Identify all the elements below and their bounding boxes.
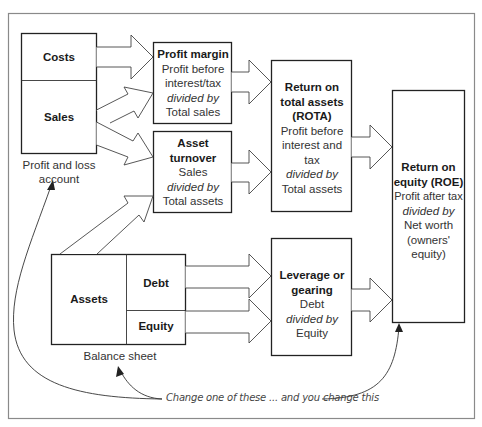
arrow-equity-to-leverage: [186, 299, 272, 343]
arrowhead-roe-icon: [395, 323, 403, 332]
arrow-assets-to-asset-turnover: [60, 196, 153, 254]
roe-line3: (owners': [390, 233, 467, 248]
rota-title2: total assets: [272, 95, 352, 110]
rota-divided: divided by: [272, 167, 352, 182]
costs-label: Costs: [21, 50, 97, 64]
rota-title1: Return on: [272, 80, 352, 95]
arrow-leverage-to-roe: [352, 278, 393, 322]
roe-content: Return on equity (ROE) Profit after tax …: [390, 160, 467, 262]
arrow-costs-to-profit-margin: [97, 35, 154, 79]
asset-turnover-line1: Sales: [154, 165, 232, 180]
profit-margin-content: Profit margin Profit before interest/tax…: [154, 47, 232, 120]
profit-margin-line2: interest/tax: [154, 76, 232, 91]
assets-label: Assets: [51, 292, 127, 306]
leverage-divided: divided by: [272, 312, 352, 327]
leverage-line2: Equity: [272, 326, 352, 341]
curve-to-balance-sheet: [121, 372, 162, 399]
roe-line4: equity): [390, 247, 467, 262]
asset-turnover-title2: turnover: [154, 151, 232, 166]
profit-loss-caption: Profit and loss account: [14, 158, 104, 186]
profit-margin-line3: Total sales: [154, 105, 232, 120]
balance-sheet-caption: Balance sheet: [60, 349, 180, 363]
leverage-title1: Leverage or: [272, 268, 352, 283]
asset-turnover-line2: Total assets: [154, 194, 232, 209]
asset-turnover-title1: Asset: [154, 136, 232, 151]
leverage-content: Leverage or gearing Debt divided by Equi…: [272, 268, 352, 341]
change-annotation: Change one of these ... and you change t…: [166, 392, 379, 403]
rota-line3: tax: [272, 153, 352, 168]
arrow-profit-margin-to-rota: [232, 60, 272, 104]
roe-title2: equity (ROE): [390, 175, 467, 190]
leverage-title2: gearing: [272, 283, 352, 298]
rota-content: Return on total assets (ROTA) Profit bef…: [272, 80, 352, 196]
arrow-debt-to-leverage: [186, 254, 272, 298]
equity-label: Equity: [126, 319, 186, 333]
asset-turnover-divided: divided by: [154, 180, 232, 195]
profit-margin-title: Profit margin: [154, 47, 232, 62]
debt-label: Debt: [126, 276, 186, 290]
profit-loss-caption-line1: Profit and loss: [14, 158, 104, 172]
arrow-sales-to-profit-margin: [97, 87, 154, 123]
leverage-line1: Debt: [272, 297, 352, 312]
profit-margin-divided: divided by: [154, 91, 232, 106]
rota-line2: interest and: [272, 138, 352, 153]
arrow-sales-to-asset-turnover: [97, 122, 154, 165]
roe-divided: divided by: [390, 204, 467, 219]
rota-title3: (ROTA): [272, 109, 352, 124]
rota-line4: Total assets: [272, 182, 352, 197]
roe-line2: Net worth: [390, 218, 467, 233]
roe-line1: Profit after tax: [390, 189, 467, 204]
roe-title1: Return on: [390, 160, 467, 175]
sales-label: Sales: [21, 110, 97, 124]
profit-loss-caption-line2: account: [14, 172, 104, 186]
asset-turnover-content: Asset turnover Sales divided by Total as…: [154, 136, 232, 209]
profit-margin-line1: Profit before: [154, 62, 232, 77]
rota-line1: Profit before: [272, 124, 352, 139]
arrow-asset-turnover-to-rota: [232, 150, 272, 194]
arrow-rota-to-roe: [352, 125, 393, 169]
